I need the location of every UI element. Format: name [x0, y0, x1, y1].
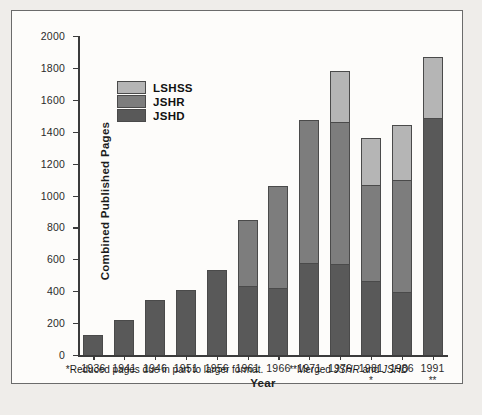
x-tick-1946: [155, 355, 156, 360]
bar-segment-1936-jshd: [83, 335, 103, 355]
x-tick-1966: [278, 355, 279, 360]
chart-footnotes: *Reduced pages due in part to larger for…: [12, 364, 462, 375]
x-tick-1951: [186, 355, 187, 360]
bar-segment-1976-jshd: [330, 264, 350, 355]
bar-1936[interactable]: [83, 335, 103, 355]
bar-1981[interactable]: [361, 138, 381, 355]
x-tick-1991: [433, 355, 434, 360]
footnote-merged-prefix: **Merged: [289, 364, 333, 375]
bar-1946[interactable]: [145, 300, 165, 355]
x-tick-1961: [248, 355, 249, 360]
y-tick-label-600: 600: [47, 253, 65, 265]
bar-1986[interactable]: [392, 125, 412, 355]
bar-segment-1981-jshd: [361, 281, 381, 355]
legend-label-jshd: JSHD: [153, 110, 185, 122]
bar-1971[interactable]: [299, 120, 319, 355]
legend-item-jshd[interactable]: JSHD: [117, 109, 193, 122]
bar-segment-1986-lshss: [392, 125, 412, 181]
bar-1976[interactable]: [330, 71, 350, 355]
x-tick-1956: [217, 355, 218, 360]
bar-segment-1986-jshr: [392, 180, 412, 292]
footnote-reduced-pages: *Reduced pages due in part to larger for…: [66, 364, 263, 375]
y-tick-label-0: 0: [59, 349, 65, 361]
bar-1961[interactable]: [238, 220, 258, 355]
bar-segment-1961-jshd: [238, 286, 258, 355]
y-tick-0: 0: [73, 355, 79, 356]
bar-segment-1956-jshd: [207, 270, 227, 355]
legend-swatch-jshr: [117, 95, 146, 108]
y-tick-label-1200: 1200: [41, 158, 65, 170]
footnote-merged-mid: and: [360, 364, 382, 375]
bar-segment-1966-jshd: [268, 288, 288, 355]
bar-segment-1971-jshr: [299, 120, 319, 263]
x-tick-1941: [124, 355, 125, 360]
y-tick-label-1000: 1000: [41, 190, 65, 202]
legend-label-jshr: JSHR: [153, 96, 185, 108]
bar-segment-1976-jshr: [330, 122, 350, 264]
bar-1991[interactable]: [423, 57, 443, 355]
bar-segment-1981-jshr: [361, 185, 381, 281]
y-tick-label-800: 800: [47, 221, 65, 233]
legend-swatch-jshd: [117, 109, 146, 122]
bar-1966[interactable]: [268, 186, 288, 355]
y-tick-label-200: 200: [47, 317, 65, 329]
x-tick-note-1991: **: [429, 375, 437, 386]
footnote-journal-jshd: JSHD: [382, 364, 408, 375]
x-tick-1976: [340, 355, 341, 360]
x-tick-note-1981: *: [369, 375, 373, 386]
legend-item-lshss[interactable]: LSHSS: [117, 81, 193, 94]
x-tick-1981: [371, 355, 372, 360]
bar-segment-1986-jshd: [392, 292, 412, 355]
x-tick-1986: [402, 355, 403, 360]
y-tick-label-1600: 1600: [41, 94, 65, 106]
bar-segment-1971-jshd: [299, 263, 319, 356]
bar-segment-1961-jshr: [238, 220, 258, 285]
legend-item-jshr[interactable]: JSHR: [117, 95, 193, 108]
bar-segment-1946-jshd: [145, 300, 165, 355]
y-tick-label-400: 400: [47, 285, 65, 297]
bar-segment-1966-jshr: [268, 186, 288, 288]
bar-1951[interactable]: [176, 290, 196, 355]
bar-1941[interactable]: [114, 320, 134, 355]
x-tick-1936: [93, 355, 94, 360]
bar-1956[interactable]: [207, 270, 227, 355]
footnote-merged-journals: **Merged JSHR and JSHD: [289, 364, 408, 375]
x-axis-title: Year: [250, 377, 276, 389]
bar-segment-1951-jshd: [176, 290, 196, 355]
legend-swatch-lshss: [117, 81, 146, 94]
footnote-journal-jshr: JSHR: [334, 364, 360, 375]
bar-segment-1991-jshd: [423, 118, 443, 355]
bar-segment-1976-lshss: [330, 71, 350, 122]
chart-legend: LSHSSJSHRJSHD: [117, 81, 193, 122]
y-tick-label-1400: 1400: [41, 126, 65, 138]
bar-segment-1991-lshss: [423, 57, 443, 118]
bar-segment-1981-lshss: [361, 138, 381, 185]
chart-figure: Combined Published Pages 020040060080010…: [11, 10, 463, 384]
legend-label-lshss: LSHSS: [153, 82, 193, 94]
y-tick-label-1800: 1800: [41, 62, 65, 74]
x-axis-line: [78, 355, 448, 357]
bar-segment-1941-jshd: [114, 320, 134, 355]
x-tick-1971: [309, 355, 310, 360]
y-tick-label-2000: 2000: [41, 30, 65, 42]
